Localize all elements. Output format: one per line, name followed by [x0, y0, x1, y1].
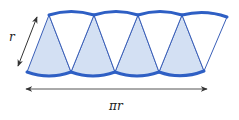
radius-label: r	[9, 31, 15, 43]
base-label: πr	[109, 100, 123, 112]
